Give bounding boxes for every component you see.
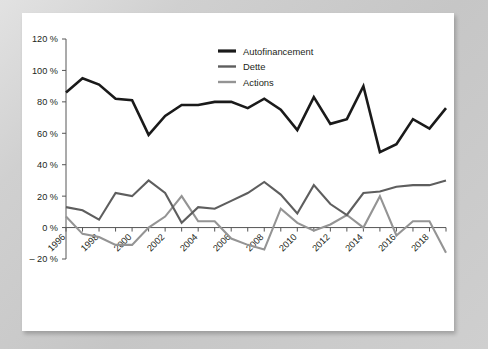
x-tick-label: 2008	[244, 232, 266, 254]
y-axis: – 20 %0 %20 %40 %60 %80 %100 %120 %	[29, 34, 66, 264]
y-tick-label: 20 %	[37, 192, 58, 202]
x-tick-label: 2010	[277, 232, 299, 254]
x-tick-label: 2002	[145, 232, 167, 254]
x-tick-label: 2006	[211, 232, 233, 254]
legend-label: Autofinancement	[243, 46, 314, 57]
y-tick-label: 120 %	[32, 34, 58, 44]
x-tick-label: 1996	[46, 232, 68, 254]
x-tick-label: 2014	[343, 232, 365, 254]
series-layer	[66, 78, 446, 252]
line-chart: – 20 %0 %20 %40 %60 %80 %100 %120 % 1996…	[22, 13, 454, 331]
legend-label: Actions	[243, 77, 274, 88]
x-tick-label: 2004	[178, 232, 200, 254]
x-tick-label: 2018	[409, 232, 431, 254]
y-tick-label: 0 %	[42, 223, 58, 233]
chart-legend: AutofinancementDetteActions	[218, 46, 314, 88]
y-tick-label: 80 %	[37, 97, 58, 107]
x-tick-label: 2000	[112, 232, 134, 254]
chart-card: – 20 %0 %20 %40 %60 %80 %100 %120 % 1996…	[22, 13, 454, 331]
y-tick-label: 60 %	[37, 129, 58, 139]
x-tick-label: 2012	[310, 232, 332, 254]
series-line-autofinancement	[66, 78, 446, 152]
y-tick-label: 40 %	[37, 160, 58, 170]
legend-label: Dette	[243, 61, 265, 72]
x-tick-label: 2016	[376, 232, 398, 254]
y-tick-label: – 20 %	[29, 254, 58, 264]
figure-container: – 20 %0 %20 %40 %60 %80 %100 %120 % 1996…	[0, 0, 488, 349]
y-tick-label: 100 %	[32, 66, 58, 76]
